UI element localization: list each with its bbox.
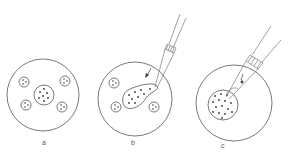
dish-outline-c: [196, 65, 272, 141]
satellite-cluster-a-1: [19, 77, 29, 87]
satellite-cluster-b-2: [111, 102, 121, 112]
panel-label-a: a: [42, 139, 46, 146]
enlarged-cluster-dots-c: [212, 93, 233, 119]
diagram-canvas: a: [0, 0, 293, 156]
arrow-icon-b: [145, 68, 151, 78]
panel-label-c: c: [221, 142, 225, 149]
dish-outline-a: [7, 59, 79, 131]
satellite-cluster-b-3: [149, 102, 159, 112]
satellite-cluster-a-3: [21, 100, 31, 110]
central-cluster-dots-a: [38, 88, 49, 102]
dish-outline-b: [98, 62, 172, 136]
panel-b: b: [98, 14, 186, 146]
satellite-cluster-b-1: [109, 78, 119, 88]
pipette-b: [155, 14, 186, 88]
panel-c: c: [196, 26, 281, 149]
satellite-cluster-a-2: [60, 76, 70, 86]
central-cluster-a: [34, 85, 54, 105]
arrow-icon-c: [241, 74, 244, 83]
panel-label-b: b: [131, 139, 135, 146]
panel-a: a: [7, 59, 79, 146]
satellite-cluster-a-4: [57, 102, 67, 112]
